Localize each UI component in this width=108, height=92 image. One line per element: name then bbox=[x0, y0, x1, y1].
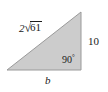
base-label: b bbox=[45, 75, 51, 86]
radical-expression: √61 bbox=[25, 22, 42, 34]
degree-symbol-icon: ° bbox=[72, 53, 75, 61]
vertical-leg-label: 10 bbox=[88, 36, 99, 47]
right-triangle-figure: 2√61 10 90° b bbox=[0, 0, 108, 92]
right-angle-value: 90 bbox=[62, 54, 72, 65]
right-angle-label: 90° bbox=[62, 54, 75, 65]
hypotenuse-label: 2√61 bbox=[19, 22, 42, 34]
radicand-value: 61 bbox=[30, 21, 42, 33]
